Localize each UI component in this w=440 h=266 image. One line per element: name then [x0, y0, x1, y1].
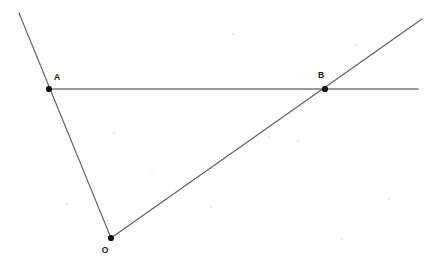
labels-group: A B O: [54, 70, 324, 255]
point-label-O: O: [102, 245, 109, 255]
geometry-diagram-canvas: A B O: [0, 0, 440, 266]
ray-through-O-and-B: [111, 19, 422, 238]
point-B-marker: [322, 86, 328, 92]
points-group: [46, 86, 328, 241]
ray-through-O-and-A: [19, 13, 111, 238]
point-label-B: B: [318, 70, 324, 80]
geometry-diagram-svg: A B O: [0, 0, 440, 266]
point-O-marker: [108, 235, 114, 241]
point-A-marker: [46, 86, 52, 92]
rays-group: [19, 13, 422, 238]
point-label-A: A: [54, 72, 60, 82]
